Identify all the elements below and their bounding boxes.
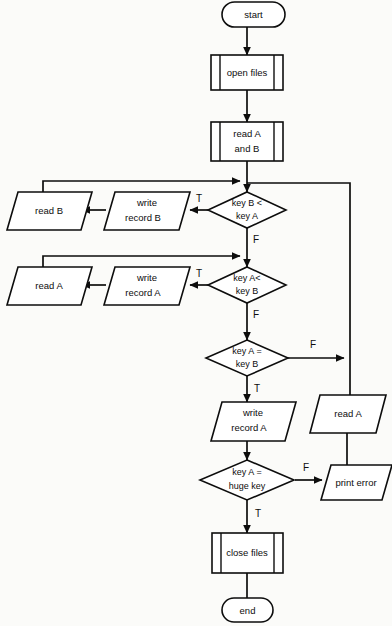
node-write-record-a[interactable]: write record A [104, 267, 190, 305]
flowchart-page: start open files read A and B key B < ke… [0, 0, 392, 626]
node-start[interactable]: start [222, 2, 285, 27]
node-read-a-and-b-label-line1: read A [233, 128, 261, 139]
node-write-record-a-label-line1: write [136, 272, 157, 283]
node-write-record-a-2[interactable]: write record A [211, 402, 296, 441]
node-read-b-label: read B [35, 205, 63, 216]
branch-label-f4: F [303, 462, 309, 473]
connectors [43, 27, 350, 598]
branch-label-t1: T [196, 193, 202, 204]
node-read-b[interactable]: read B [7, 192, 92, 230]
node-open-files-label: open files [227, 67, 268, 78]
node-decision-huge-key-label-line2: huge key [229, 481, 266, 491]
node-decision-key-a-lt-key-b[interactable]: key A< key B [208, 267, 286, 303]
node-decision-huge-key[interactable]: key A = huge key [200, 460, 294, 500]
node-read-a-right[interactable]: read A [310, 395, 386, 433]
node-decision-key-b-lt-key-a-label-line2: key A [236, 211, 258, 221]
node-close-files-label: close files [226, 547, 268, 558]
node-read-a-and-b-label-line2: and B [235, 143, 260, 154]
node-decision-key-a-lt-key-b-label-line2: key B [236, 286, 259, 296]
node-read-a-right-label: read A [334, 408, 362, 419]
node-read-a-and-b[interactable]: read A and B [211, 122, 283, 161]
node-end-label: end [240, 605, 256, 616]
node-decision-key-a-eq-key-b-label-line2: key B [236, 359, 259, 369]
branch-label-t3: T [254, 383, 260, 394]
node-close-files[interactable]: close files [212, 533, 283, 573]
node-start-label: start [244, 9, 263, 20]
branch-label-f3: F [310, 339, 316, 350]
node-decision-key-b-lt-key-a-label-line1: key B < [232, 198, 262, 208]
flowchart-canvas: start open files read A and B key B < ke… [0, 0, 392, 626]
node-end[interactable]: end [222, 598, 273, 622]
node-read-a-left[interactable]: read A [7, 267, 92, 305]
node-read-a-left-label: read A [35, 280, 63, 291]
node-open-files[interactable]: open files [211, 55, 283, 90]
node-decision-key-a-eq-key-b[interactable]: key A = key B [206, 340, 288, 376]
node-write-record-b-label-line1: write [136, 197, 157, 208]
branch-label-t2: T [196, 268, 202, 279]
branch-label-f1: F [253, 234, 259, 245]
node-decision-huge-key-label-line1: key A = [232, 467, 261, 477]
node-write-record-a-label-line2: record A [125, 287, 161, 298]
node-write-record-b-label-line2: record B [125, 212, 161, 223]
node-write-record-a-2-label-line2: record A [231, 422, 267, 433]
branch-label-t4: T [255, 508, 261, 519]
branch-label-f2: F [253, 309, 259, 320]
edge-read-a-loopback [43, 256, 240, 267]
node-write-record-a-2-label-line1: write [242, 407, 263, 418]
node-decision-key-b-lt-key-a[interactable]: key B < key A [208, 192, 286, 228]
node-print-error-label: print error [335, 477, 376, 488]
node-print-error[interactable]: print error [321, 465, 392, 500]
edge-read-b-loopback [43, 181, 240, 192]
node-write-record-b[interactable]: write record B [104, 192, 190, 230]
node-decision-key-a-eq-key-b-label-line1: key A = [232, 346, 261, 356]
node-decision-key-a-lt-key-b-label-line1: key A< [233, 273, 260, 283]
